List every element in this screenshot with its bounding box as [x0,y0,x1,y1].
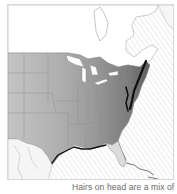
range-map [7,4,174,180]
map-caption: Hairs on head are a mix of [72,182,174,192]
lake-michigan [82,67,86,83]
map-graphic [8,5,174,180]
